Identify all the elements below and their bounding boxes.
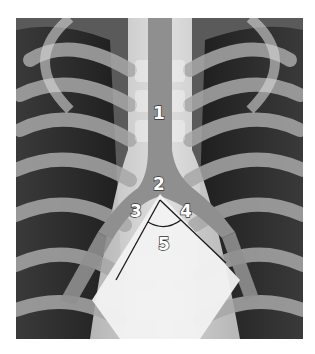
label-4: 4 <box>180 201 192 221</box>
label-3: 3 <box>130 201 142 221</box>
label-1: 1 <box>153 103 165 123</box>
label-5: 5 <box>158 234 170 254</box>
chest-xray-diagram: 1 2 3 4 5 <box>16 18 303 339</box>
label-2: 2 <box>153 174 165 194</box>
